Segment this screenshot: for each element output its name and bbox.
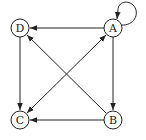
node-a: A bbox=[104, 19, 122, 37]
svg-text:B: B bbox=[109, 114, 117, 127]
node-c: C bbox=[11, 111, 29, 129]
node-d: D bbox=[11, 19, 29, 37]
graph-diagram: D A C B bbox=[0, 0, 146, 140]
svg-text:D: D bbox=[16, 22, 25, 35]
node-b: B bbox=[104, 111, 122, 129]
svg-text:C: C bbox=[16, 114, 24, 127]
svg-text:A: A bbox=[108, 22, 118, 35]
